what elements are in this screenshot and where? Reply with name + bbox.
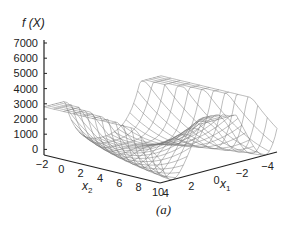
z-tick-label: 5000 <box>14 67 38 79</box>
z-tick-label: 7000 <box>14 37 38 49</box>
z-tick-label: 1000 <box>14 128 38 140</box>
x2-tick-label: 2 <box>78 167 84 179</box>
z-tick-label: 6000 <box>14 52 38 64</box>
x1-tick-label: −4 <box>261 160 274 172</box>
x2-tick-label: 0 <box>58 163 64 175</box>
figure-caption: (a) <box>156 202 171 217</box>
wireframe-surface <box>44 76 277 180</box>
z-tick-label: 0 <box>32 143 38 155</box>
x1-tick-label: −2 <box>236 167 249 179</box>
x1-tick-label: 0 <box>214 174 220 186</box>
z-axis: 70006000500040003000200010000 f (X) <box>14 16 47 155</box>
z-tick-label: 4000 <box>14 83 38 95</box>
surface-plot-figure: 70006000500040003000200010000 f (X) −202… <box>0 0 292 234</box>
z-tick-label: 2000 <box>14 113 38 125</box>
x1-tick-label: 4 <box>163 187 169 199</box>
surface-plot: 70006000500040003000200010000 f (X) −202… <box>0 0 292 234</box>
x1-tick-label: 2 <box>188 180 194 192</box>
x2-tick-label: 8 <box>136 181 142 193</box>
x2-tick-label: 6 <box>116 177 122 189</box>
x1-axis-label: x1 <box>219 177 231 193</box>
x2-axis-label: x2 <box>81 179 93 195</box>
z-axis-label: f (X) <box>22 16 45 30</box>
z-tick-label: 3000 <box>14 98 38 110</box>
x2-tick-label: 4 <box>97 172 103 184</box>
x2-tick-label: −2 <box>36 158 49 170</box>
